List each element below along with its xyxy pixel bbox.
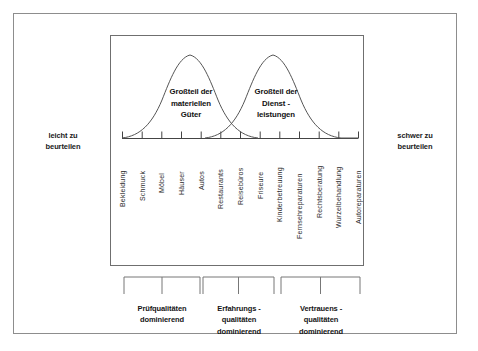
annotation-services-line1: Großteil der [233, 86, 319, 98]
tick-label-wurzelbehandlung: Wurzelbehandlung [335, 167, 342, 228]
tick-label-autos: Autos [198, 171, 205, 190]
right-axis-label-line1: schwer zu [378, 131, 452, 142]
tick-label-autoreparaturen: Autoreparaturen [355, 170, 362, 224]
bracket-erfahrungsqualitaeten [203, 277, 274, 294]
bracket-label-erfahrungsqualitaeten: Erfahrungs - qualitäten dominierend [199, 303, 279, 337]
bracket-label-vertrauensqualitaeten: Vertrauens - qualitäten dominierend [281, 303, 361, 337]
tick-label-haeuser: Häuser [178, 171, 185, 195]
bracket-pruefqualitaeten [124, 277, 200, 294]
bracket2-line1: Vertrauens - [281, 303, 361, 314]
left-axis-label-line1: leicht zu [26, 131, 100, 142]
tick-label-kinderbetreuung: Kinderbetreuung [276, 167, 283, 222]
diagram-page: leicht zu beurteilen schwer zu beurteile… [0, 0, 478, 351]
annotation-services-line3: leistungen [233, 109, 319, 121]
annotation-goods-line1: Großteil der [148, 86, 234, 98]
tick-label-restaurants: Restaurants [217, 169, 224, 209]
tick-label-bekleidung: Bekleidung [119, 170, 126, 207]
bracket2-line2: qualitäten [281, 314, 361, 325]
tick-label-friseure: Friseure [257, 172, 264, 199]
annotation-materielle-gueter: Großteil der materiellen Güter [148, 86, 234, 121]
right-axis-label-line2: beurteilen [378, 142, 452, 153]
annotation-dienstleistungen: Großteil der Dienst - leistungen [233, 86, 319, 121]
left-axis-label-line2: beurteilen [26, 142, 100, 153]
tick-label-rechtsberatung: Rechtsberatung [316, 166, 323, 218]
annotation-services-line2: Dienst - [233, 98, 319, 110]
right-axis-label: schwer zu beurteilen [378, 131, 452, 153]
tick-label-reisebueros: Reisebüros [237, 168, 244, 205]
axis-ticks [123, 132, 359, 139]
annotation-goods-line3: Güter [148, 109, 234, 121]
bracket1-line2: qualitäten [199, 314, 279, 325]
tick-label-schmuck: Schmuck [139, 171, 146, 201]
bracket0-line1: Prüfqualitäten [122, 303, 202, 314]
annotation-goods-line2: materiellen [148, 98, 234, 110]
bracket-vertrauensqualitaeten [281, 277, 360, 294]
left-axis-label: leicht zu beurteilen [26, 131, 100, 153]
bracket0-line2: dominierend [122, 314, 202, 325]
bracket1-line1: Erfahrungs - [199, 303, 279, 314]
bracket2-line3: dominierend [281, 326, 361, 337]
bracket-label-pruefqualitaeten: Prüfqualitäten dominierend [122, 303, 202, 326]
tick-label-moebel: Möbel [158, 173, 165, 193]
tick-label-fernsehreparaturen: Fernsehreparaturen [296, 174, 303, 239]
bracket1-line3: dominierend [199, 326, 279, 337]
